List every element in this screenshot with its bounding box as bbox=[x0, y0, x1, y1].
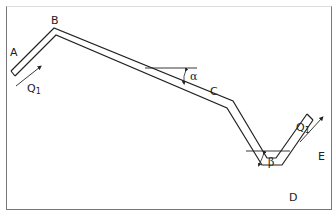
label-angle-alpha: α bbox=[190, 70, 198, 83]
pipeline-diagram: A B C D E Q1 Q1 α β bbox=[0, 0, 334, 217]
pipe-lower-wall bbox=[15, 35, 313, 165]
pipe-upper-wall bbox=[11, 28, 307, 158]
pipe-end-cap-e bbox=[307, 114, 313, 120]
label-point-a: A bbox=[10, 46, 18, 59]
label-point-b: B bbox=[51, 14, 59, 27]
label-point-e: E bbox=[318, 150, 325, 163]
label-angle-beta: β bbox=[268, 156, 274, 169]
label-flow-out: Q1 bbox=[296, 121, 310, 135]
pipe-end-cap-a bbox=[11, 71, 15, 76]
label-point-d: D bbox=[289, 191, 297, 204]
label-point-c: C bbox=[210, 85, 218, 98]
label-flow-in: Q1 bbox=[27, 82, 41, 96]
